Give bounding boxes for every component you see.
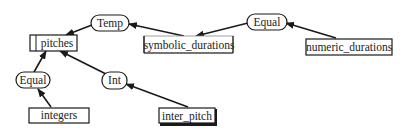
edge-temp-to-pitches <box>66 25 92 35</box>
edge-int-to-pitches <box>60 51 106 74</box>
node-pitches-label: pitches <box>41 37 74 50</box>
node-inter-pitch-label: inter_pitch <box>162 110 212 123</box>
node-equal-top-label: Equal <box>254 16 281 29</box>
node-pitches: pitches <box>30 35 77 51</box>
edge-integers-to-equal <box>38 89 51 107</box>
node-inter-pitch: inter_pitch <box>159 108 217 126</box>
node-integers: integers <box>29 108 89 123</box>
dependency-diagram: pitches Temp symbolic_durations Equal nu… <box>0 0 411 132</box>
edge-equal-to-symbolic <box>196 23 248 36</box>
node-temp: Temp <box>91 15 129 31</box>
edge-equal-left-to-pitches <box>34 51 46 72</box>
node-symbolic-durations-label: symbolic_durations <box>144 39 235 52</box>
edges <box>34 23 336 107</box>
edge-interpitch-to-int <box>126 84 188 107</box>
node-equal-left-label: Equal <box>20 74 47 87</box>
node-equal-left: Equal <box>16 72 50 88</box>
node-equal-top: Equal <box>247 14 287 30</box>
node-numeric-durations: numeric_durations <box>306 39 393 55</box>
node-temp-label: Temp <box>97 17 123 30</box>
node-int-label: Int <box>108 74 122 86</box>
node-integers-label: integers <box>41 109 78 122</box>
node-symbolic-durations: symbolic_durations <box>144 36 235 53</box>
node-numeric-durations-label: numeric_durations <box>306 41 393 53</box>
edge-symbolic-to-temp <box>129 24 184 36</box>
edge-numeric-to-equal <box>286 23 336 38</box>
node-int: Int <box>102 72 127 89</box>
